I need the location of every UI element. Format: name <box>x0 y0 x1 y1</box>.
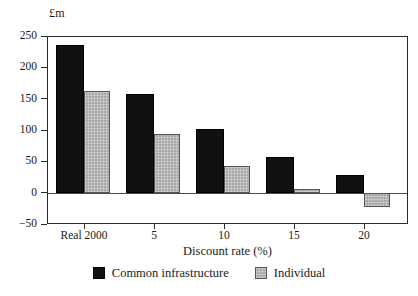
bar-individual <box>294 189 320 193</box>
bar-individual <box>84 91 110 193</box>
bar-common-infrastructure <box>266 157 294 193</box>
bar-common-infrastructure <box>56 45 84 192</box>
x-axis-title: Discount rate (%) <box>47 244 408 258</box>
bar-individual <box>224 166 250 193</box>
y-axis-tick-label: −50 <box>0 218 37 230</box>
y-axis-tick-label: 100 <box>0 124 37 136</box>
y-axis-tick <box>41 161 47 162</box>
bar-individual <box>154 134 180 192</box>
bar-common-infrastructure <box>336 175 364 193</box>
y-axis-tick-label: 250 <box>0 30 37 42</box>
zero-baseline <box>48 193 407 194</box>
y-axis-tick <box>41 224 47 225</box>
bar-individual <box>364 193 390 207</box>
legend-entry: Individual <box>255 266 325 280</box>
bar-common-infrastructure <box>196 129 224 193</box>
y-axis-tick-label: 200 <box>0 61 37 73</box>
black-square-swatch <box>93 267 105 279</box>
y-axis-tick <box>41 36 47 37</box>
legend-label: Individual <box>274 266 325 280</box>
legend-entry: Common infrastructure <box>93 266 229 280</box>
y-axis-tick <box>41 67 47 68</box>
y-axis-tick-label: 50 <box>0 155 37 167</box>
y-axis-tick <box>41 130 47 131</box>
gray-square-swatch <box>255 267 267 279</box>
legend-label: Common infrastructure <box>112 266 229 280</box>
y-axis-tick <box>41 192 47 193</box>
chart-legend: Common infrastructureIndividual <box>0 266 418 280</box>
bar-chart-figure: £m 250200150100500−50Real 20005101520 Di… <box>0 0 418 296</box>
y-axis-tick-label: 0 <box>0 187 37 199</box>
y-axis-tick <box>41 98 47 99</box>
y-axis-tick-label: 150 <box>0 93 37 105</box>
y-axis-unit-label: £m <box>49 6 65 20</box>
bar-common-infrastructure <box>126 94 154 193</box>
x-axis-tick-label: 20 <box>319 229 409 242</box>
